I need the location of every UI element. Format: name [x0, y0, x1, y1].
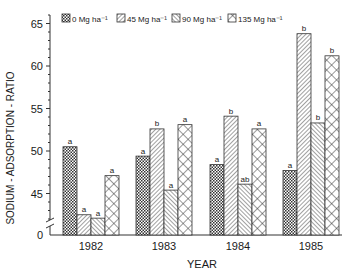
y-tick-label: 65 [31, 18, 43, 30]
bar [224, 116, 238, 235]
bar [178, 125, 192, 235]
x-tick-label: 1984 [226, 240, 250, 252]
legend-label: 135 Mg ha⁻¹ [238, 15, 283, 24]
bar [91, 218, 105, 235]
bar [136, 156, 150, 235]
bar-group-1982: aaaa1982 [63, 137, 119, 252]
y-tick-label: 45 [31, 188, 43, 200]
bar [210, 165, 224, 235]
significance-letter: a [169, 181, 174, 190]
significance-letter: a [183, 115, 188, 124]
significance-letter: a [288, 161, 293, 170]
legend-item: 90 Mg ha⁻¹ [172, 14, 222, 24]
bar [150, 129, 164, 235]
legend-swatch [62, 14, 70, 22]
legend-label: 0 Mg ha⁻¹ [72, 15, 108, 24]
sar-bar-chart: 04550556065 aaaa1982abaa1983ababa1984abb… [0, 0, 354, 278]
legend: 0 Mg ha⁻¹45 Mg ha⁻¹90 Mg ha⁻¹135 Mg ha⁻¹ [62, 14, 283, 24]
bar [77, 215, 91, 235]
legend-label: 45 Mg ha⁻¹ [127, 15, 167, 24]
bar [164, 190, 178, 235]
y-axis-title: SODIUM - ADSORPTION - RATIO [5, 71, 16, 224]
significance-letter: a [215, 155, 220, 164]
y-tick-label: 50 [31, 145, 43, 157]
legend-item: 135 Mg ha⁻¹ [228, 14, 283, 24]
bar [252, 129, 266, 235]
bar [297, 34, 311, 235]
significance-letter: a [68, 137, 73, 146]
legend-item: 0 Mg ha⁻¹ [62, 14, 108, 24]
legend-label: 90 Mg ha⁻¹ [182, 15, 222, 24]
x-axis-title: YEAR [187, 258, 217, 270]
legend-item: 45 Mg ha⁻¹ [117, 14, 167, 24]
y-tick-label: 55 [31, 103, 43, 115]
bar [63, 147, 77, 235]
x-tick-label: 1985 [299, 240, 323, 252]
bar [311, 123, 325, 235]
legend-swatch [117, 14, 125, 22]
legend-swatch [228, 14, 236, 22]
bar [238, 184, 252, 235]
significance-letter: a [141, 147, 146, 156]
bars: aaaa1982abaa1983ababa1984abbb1985 [63, 24, 339, 252]
y-tick-label: 0 [37, 229, 43, 241]
significance-letter: b [155, 119, 160, 128]
bar [283, 171, 297, 235]
significance-letter: a [82, 205, 87, 214]
bar-group-1984: ababa1984 [210, 107, 266, 252]
significance-letter: b [229, 107, 234, 116]
y-tick-label: 60 [31, 60, 43, 72]
x-tick-label: 1983 [152, 240, 176, 252]
bar [105, 176, 119, 235]
x-tick-label: 1982 [79, 240, 103, 252]
significance-letter: b [302, 24, 307, 33]
significance-letter: ab [241, 175, 250, 184]
significance-letter: a [110, 166, 115, 175]
significance-letter: a [96, 209, 101, 218]
significance-letter: a [257, 119, 262, 128]
bar [325, 56, 339, 235]
legend-swatch [172, 14, 180, 22]
significance-letter: b [316, 113, 321, 122]
significance-letter: b [330, 46, 335, 55]
bar-group-1985: abbb1985 [283, 24, 339, 252]
bar-group-1983: abaa1983 [136, 115, 192, 252]
